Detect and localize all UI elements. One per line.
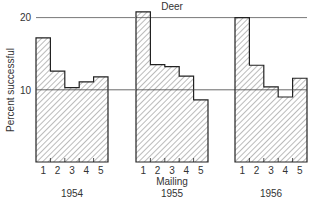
x-tick-label: 2 bbox=[155, 165, 161, 176]
panel-year-label: 1956 bbox=[260, 188, 283, 199]
x-tick-label: 5 bbox=[98, 165, 104, 176]
x-tick-label: 2 bbox=[55, 165, 61, 176]
x-tick-label: 5 bbox=[198, 165, 204, 176]
panel-year-label: 1955 bbox=[161, 188, 184, 199]
x-tick-label: 4 bbox=[283, 165, 289, 176]
x-tick-label: 3 bbox=[69, 165, 75, 176]
panel-1956: 123451956 bbox=[235, 18, 307, 199]
x-tick-label: 4 bbox=[184, 165, 190, 176]
x-tick-label: 5 bbox=[297, 165, 303, 176]
x-tick-label: 4 bbox=[84, 165, 90, 176]
bars-1955 bbox=[136, 12, 208, 162]
chart-title: Deer bbox=[161, 1, 183, 12]
x-tick-label: 1 bbox=[239, 165, 245, 176]
y-tick-10: 10 bbox=[20, 85, 32, 96]
bars-1954 bbox=[36, 38, 108, 162]
x-tick-label: 2 bbox=[254, 165, 260, 176]
panel-1954: 123451954 bbox=[36, 18, 135, 199]
x-tick-label: 3 bbox=[169, 165, 175, 176]
y-axis-label: Percent successful bbox=[5, 48, 16, 132]
x-tick-label: 1 bbox=[40, 165, 46, 176]
x-tick-label: 1 bbox=[140, 165, 146, 176]
y-tick-20: 20 bbox=[20, 12, 32, 23]
chart: 20 10 Percent successful Deer Mailing 12… bbox=[0, 0, 317, 212]
panel-1955: 123451955 bbox=[136, 12, 235, 199]
x-tick-label: 3 bbox=[268, 165, 274, 176]
panel-year-label: 1954 bbox=[61, 188, 84, 199]
x-axis-label: Mailing bbox=[156, 176, 188, 187]
